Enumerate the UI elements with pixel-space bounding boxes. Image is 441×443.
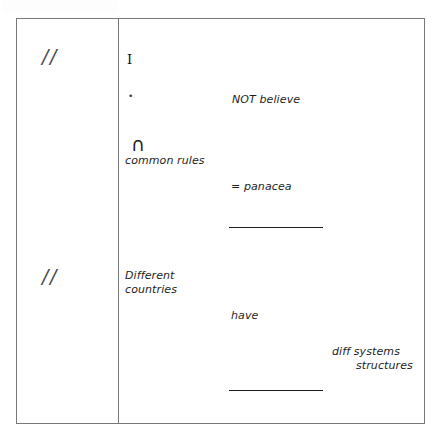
intersection-symbol-icon: ∩ bbox=[131, 135, 145, 154]
letter-i-glyph: I bbox=[127, 53, 132, 66]
notes-table: // // I • NOT believe ∩ common rules = p… bbox=[16, 18, 425, 424]
note-have: have bbox=[231, 309, 258, 323]
bullet-dot-icon: • bbox=[128, 92, 133, 101]
scan-page: // // I • NOT believe ∩ common rules = p… bbox=[0, 0, 441, 443]
note-not-believe: NOT believe bbox=[232, 93, 300, 107]
scan-artifact bbox=[2, 1, 118, 12]
note-different-line2: countries bbox=[125, 283, 177, 296]
note-different-countries: Differentcountries bbox=[125, 269, 177, 297]
note-diff-systems-structures: diff systemsstructures bbox=[332, 345, 413, 373]
tally-mark-bottom: // bbox=[42, 267, 58, 286]
underline-rule-upper bbox=[229, 227, 323, 228]
note-common-rules: common rules bbox=[125, 154, 205, 168]
note-diff-systems-line1: diff systems bbox=[332, 345, 400, 358]
note-diff-systems-line2: structures bbox=[332, 359, 413, 373]
underline-rule-lower bbox=[229, 390, 323, 391]
margin-column: // // bbox=[17, 19, 118, 423]
note-panacea: = panacea bbox=[231, 180, 292, 194]
tally-mark-top: // bbox=[42, 47, 58, 66]
body-column: I • NOT believe ∩ common rules = panacea… bbox=[119, 19, 425, 423]
note-different-line1: Different bbox=[125, 269, 175, 282]
